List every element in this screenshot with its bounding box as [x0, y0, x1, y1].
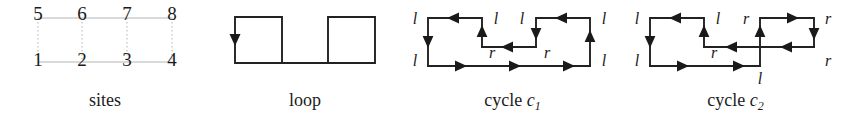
c2-arrow-right-square-top-icon — [787, 13, 799, 24]
caption-cycle-c1-prefix: cycle — [484, 90, 526, 110]
site-label-7: 7 — [122, 3, 132, 24]
c2-arrow-right-square-right-down-icon — [809, 28, 820, 40]
c2-label-bottom-center: l — [758, 70, 763, 87]
loop-arrow-down-icon — [230, 34, 241, 46]
caption-cycle-c2-symbol: c — [750, 90, 758, 110]
c2-arrow-bottom-2-icon — [733, 61, 745, 72]
caption-cycle-c1: cycle c1 — [400, 88, 625, 118]
site-label-1: 1 — [33, 49, 43, 70]
site-label-3: 3 — [122, 49, 132, 70]
panel-loop: loop — [210, 0, 400, 123]
caption-cycle-c2: cycle c2 — [622, 88, 849, 118]
site-label-8: 8 — [167, 3, 177, 24]
c2-label-outer-top-right: r — [825, 10, 832, 27]
loop-svg — [210, 0, 400, 88]
c2-arrow-top-left-icon — [669, 13, 681, 24]
c1-label-inner-top-right: l — [520, 10, 525, 27]
c1-arrow-bottom-1-icon — [455, 61, 467, 72]
caption-cycle-c1-symbol: c — [527, 90, 535, 110]
figure-root: 5 6 7 8 1 2 3 4 sites loop — [0, 0, 849, 123]
c1-label-outer-bottom-left: l — [413, 52, 418, 69]
site-label-4: 4 — [167, 49, 177, 70]
loop-diagram — [210, 0, 400, 88]
site-label-6: 6 — [77, 3, 87, 24]
caption-sites: sites — [0, 88, 210, 112]
cycle-c2-diagram: l l r r l r r l — [622, 0, 849, 88]
c2-label-inner-top-left: l — [716, 10, 721, 27]
c2-label-inner-top-right: r — [743, 10, 750, 27]
c1-arrow-bottom-3-icon — [563, 61, 575, 72]
c1-arrow-inner-right-down-icon — [531, 28, 542, 40]
c1-arrow-bridge-left-icon — [501, 42, 513, 53]
c1-label-outer-bottom-right: l — [602, 52, 607, 69]
c2-arrow-right-square-left-up-icon — [755, 25, 766, 37]
panel-cycle-c2: l l r r l r r l cycle c2 — [622, 0, 849, 123]
caption-cycle-c2-subscript: 2 — [758, 99, 764, 113]
c1-arrow-right-up-icon — [585, 30, 596, 42]
c1-label-inner-top-left: l — [494, 10, 499, 27]
cycle-c2-svg: l l r r l r r l — [622, 0, 849, 88]
c1-arrow-left-down-icon — [423, 36, 434, 48]
c2-left-square-path — [650, 18, 704, 66]
c2-arrow-inner-left-up-icon — [699, 25, 710, 37]
panel-sites: 5 6 7 8 1 2 3 4 sites — [0, 0, 210, 123]
c1-left-square-path — [428, 18, 482, 66]
site-label-2: 2 — [77, 49, 87, 70]
c1-arrow-inner-left-up-icon — [477, 25, 488, 37]
c1-label-inner-left: r — [489, 44, 496, 61]
loop-path — [235, 17, 375, 63]
panel-cycle-c1: l l l l l r r l cycle c1 — [400, 0, 625, 123]
c1-arrow-top-left-icon — [447, 13, 459, 24]
site-label-5: 5 — [33, 3, 43, 24]
c2-label-inner-left: r — [711, 44, 718, 61]
c1-label-outer-top-left: l — [413, 10, 418, 27]
c1-arrow-top-right-icon — [555, 13, 567, 24]
c2-label-outer-top-left: l — [635, 10, 640, 27]
sites-diagram: 5 6 7 8 1 2 3 4 — [0, 0, 210, 88]
cycle-c1-svg: l l l l l r r l — [400, 0, 625, 88]
c2-label-outer-bottom-left: l — [635, 52, 640, 69]
c1-label-inner-right: r — [544, 44, 551, 61]
cycle-c1-diagram: l l l l l r r l — [400, 0, 625, 88]
c2-right-square-path — [760, 18, 814, 66]
c2-arrow-left-down-icon — [645, 36, 656, 48]
c1-arrow-bottom-2-icon — [509, 61, 521, 72]
caption-loop: loop — [210, 88, 400, 112]
caption-cycle-c2-prefix: cycle — [707, 90, 749, 110]
c2-label-outer-bottom-right: r — [825, 52, 832, 69]
c2-arrow-bridge-left-2-icon — [780, 42, 792, 53]
sites-svg: 5 6 7 8 1 2 3 4 — [0, 0, 210, 88]
c2-arrow-bridge-left-1-icon — [725, 42, 737, 53]
c1-label-outer-top-right: l — [602, 10, 607, 27]
c2-arrow-bottom-1-icon — [677, 61, 689, 72]
caption-cycle-c1-subscript: 1 — [535, 99, 541, 113]
